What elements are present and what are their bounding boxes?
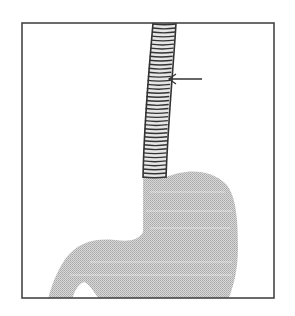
arrow-icon — [169, 74, 202, 84]
stent-diagram — [0, 0, 295, 316]
stomach-shape — [48, 172, 238, 301]
stent — [143, 23, 176, 178]
